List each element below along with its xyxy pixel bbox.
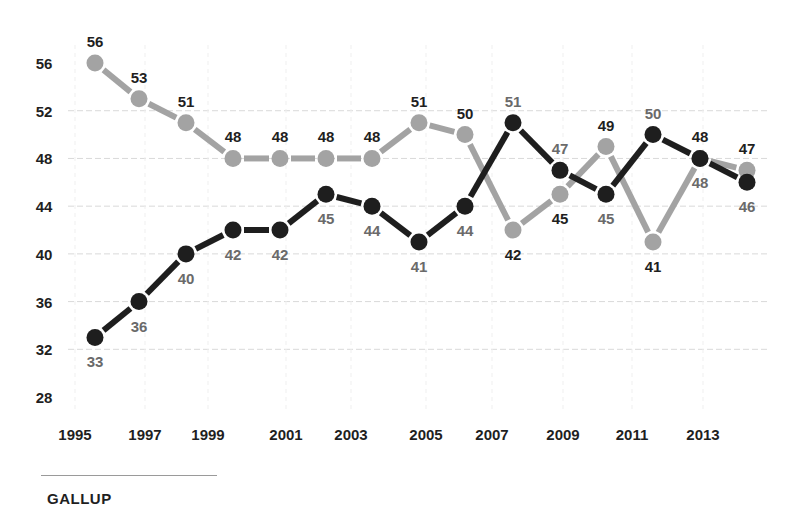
source-label: GALLUP — [47, 490, 112, 507]
data-point — [364, 150, 381, 167]
data-point — [318, 186, 335, 203]
data-label: 45 — [552, 210, 569, 227]
data-point — [598, 186, 615, 203]
y-tick-label: 48 — [36, 150, 53, 167]
data-label: 56 — [87, 33, 104, 50]
data-point — [692, 150, 709, 167]
data-point — [225, 222, 242, 239]
data-label: 50 — [645, 105, 662, 122]
y-tick-label: 32 — [36, 341, 53, 358]
data-point — [178, 114, 195, 131]
data-point — [318, 150, 335, 167]
data-point — [272, 150, 289, 167]
data-point — [598, 138, 615, 155]
y-tick-label: 28 — [36, 389, 53, 406]
series-segment — [195, 129, 224, 151]
data-label: 48 — [272, 128, 289, 145]
data-point — [645, 126, 662, 143]
series-segment — [663, 140, 690, 154]
data-point — [457, 198, 474, 215]
x-tick-label: 2007 — [475, 426, 508, 443]
data-label: 51 — [411, 93, 428, 110]
y-tick-label: 52 — [36, 103, 53, 120]
data-point — [552, 162, 569, 179]
data-label: 44 — [457, 222, 474, 239]
y-tick-label: 44 — [36, 198, 53, 215]
data-label: 44 — [364, 222, 381, 239]
data-label: 50 — [457, 105, 474, 122]
series-segment — [147, 262, 179, 294]
series-segment — [289, 201, 318, 223]
data-label: 48 — [692, 128, 709, 145]
series-light — [87, 55, 756, 251]
series-segment — [196, 235, 223, 249]
data-label: 41 — [411, 258, 428, 275]
data-label: 48 — [364, 128, 381, 145]
series-segment — [104, 70, 131, 92]
x-axis: 1995199719992001200320052007200920112013 — [58, 426, 719, 443]
data-point — [505, 222, 522, 239]
data-point — [411, 233, 428, 250]
series-segment — [337, 197, 362, 203]
x-tick-label: 2005 — [409, 426, 442, 443]
series-segment — [104, 309, 131, 331]
series-segment — [430, 125, 455, 131]
series-segment — [658, 168, 694, 232]
data-label: 47 — [739, 140, 756, 157]
data-label: 51 — [505, 93, 522, 110]
data-point — [131, 90, 148, 107]
data-point — [87, 55, 104, 72]
data-label: 51 — [178, 93, 195, 110]
data-label: 53 — [131, 69, 148, 86]
data-label: 41 — [645, 258, 662, 275]
line-chart: 5652484440363228 19951997199920012003200… — [0, 0, 798, 530]
data-label: 42 — [272, 246, 289, 263]
x-tick-label: 1995 — [58, 426, 91, 443]
x-tick-label: 2009 — [546, 426, 579, 443]
y-tick-label: 40 — [36, 246, 53, 263]
data-point — [505, 114, 522, 131]
data-point — [225, 150, 242, 167]
x-tick-label: 2013 — [686, 426, 719, 443]
data-point — [178, 245, 195, 262]
x-tick-label: 2001 — [269, 426, 302, 443]
series-segment — [521, 130, 553, 162]
series-dark — [87, 114, 756, 346]
data-label: 42 — [225, 246, 242, 263]
data-labels: 5653514848484851504245494148473336404242… — [87, 33, 756, 370]
data-label: 48 — [692, 174, 709, 191]
x-tick-label: 1999 — [191, 426, 224, 443]
source-divider — [41, 475, 217, 476]
data-point — [364, 198, 381, 215]
data-label: 45 — [318, 210, 335, 227]
series-segment — [381, 129, 410, 151]
y-axis: 5652484440363228 — [36, 55, 53, 406]
data-label: 33 — [87, 353, 104, 370]
y-tick-label: 56 — [36, 55, 53, 72]
data-label: 40 — [178, 270, 195, 287]
data-label: 47 — [552, 140, 569, 157]
data-label: 36 — [131, 318, 148, 335]
y-tick-label: 36 — [36, 294, 53, 311]
x-tick-label: 2011 — [616, 426, 649, 443]
data-point — [552, 186, 569, 203]
series-segment — [428, 213, 457, 235]
data-point — [411, 114, 428, 131]
data-point — [645, 233, 662, 250]
data-label: 42 — [505, 246, 522, 263]
data-label: 45 — [598, 210, 615, 227]
data-label: 46 — [739, 198, 756, 215]
x-tick-label: 2003 — [334, 426, 367, 443]
data-point — [87, 329, 104, 346]
data-point — [131, 293, 148, 310]
series-segment — [522, 201, 551, 223]
data-point — [272, 222, 289, 239]
data-point — [739, 174, 756, 191]
data-label: 48 — [225, 128, 242, 145]
x-tick-label: 1997 — [128, 426, 161, 443]
data-point — [457, 126, 474, 143]
data-label: 49 — [598, 117, 615, 134]
series-segment — [381, 213, 410, 235]
data-label: 48 — [318, 128, 335, 145]
